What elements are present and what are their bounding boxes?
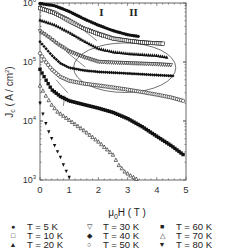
- y-tick-label: 104: [23, 115, 37, 126]
- jc-vs-field-chart: III 012345103104105106Jc ( A / cm2): [0, 0, 226, 210]
- data-series: [38, 2, 184, 181]
- y-tick-label: 105: [23, 56, 37, 67]
- y-tick-label: 103: [23, 174, 37, 185]
- legend-marker-icon: ◆: [84, 231, 94, 240]
- x-axis-label: μ0H ( T ): [0, 207, 226, 220]
- x-tick-label: 2: [96, 184, 101, 195]
- legend-marker-icon: ■: [157, 222, 167, 231]
- legend-marker-icon: ▲: [8, 240, 18, 249]
- x-tick-label: 1: [67, 184, 72, 195]
- legend-marker-icon: □: [8, 231, 18, 240]
- legend-item: ○T = 50 K: [84, 240, 139, 249]
- legend-marker-icon: ○: [84, 240, 94, 249]
- region-label: II: [129, 6, 138, 18]
- legend-marker-icon: ●: [8, 222, 18, 231]
- series-t-80-k: [38, 102, 71, 180]
- y-tick-label: 106: [23, 0, 37, 8]
- legend-marker-icon: ▽: [84, 222, 94, 231]
- legend-marker-icon: ▼: [157, 240, 167, 249]
- region-label: I: [99, 6, 103, 18]
- x-tick-label: 0: [37, 184, 42, 195]
- legend-label: T = 20 K: [27, 240, 63, 249]
- series-t-5-k: [38, 2, 140, 38]
- series-t-70-k: [38, 84, 138, 181]
- x-tick-label: 4: [154, 184, 159, 195]
- legend-marker-icon: △: [157, 231, 167, 240]
- legend-item: ▲T = 20 K: [8, 240, 63, 249]
- tick-labels: 012345103104105106Jc ( A / cm2): [4, 0, 189, 195]
- series-t-20-k: [38, 18, 168, 59]
- legend-label: T = 50 K: [103, 240, 139, 249]
- x-tick-label: 3: [125, 184, 130, 195]
- legend-label: T = 80 K: [176, 240, 212, 249]
- legend-item: ▼T = 80 K: [157, 240, 212, 249]
- x-tick-label: 5: [183, 184, 188, 195]
- y-axis-label: Jc ( A / cm2): [4, 66, 16, 117]
